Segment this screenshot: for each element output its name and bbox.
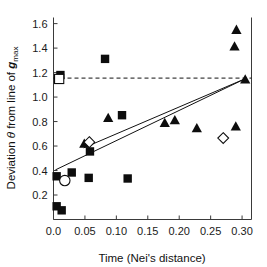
x-tick-label-5: 0.25 [200,225,221,237]
filled-square-marker [101,55,109,63]
y-tick-label-7: 1.6 [32,18,47,30]
open-square-marker [55,74,64,83]
filled-triangle-marker [231,121,241,130]
filled-square-marker [123,174,131,182]
filled-triangle-marker [192,123,202,132]
y-tick-label-2: 0.6 [32,140,47,152]
y-tick-label-3: 0.8 [32,116,47,128]
y-tick-label-0: 0.2 [32,189,47,201]
x-tick-label-3: 0.15 [137,225,158,237]
x-tick-label-4: 0.20 [169,225,190,237]
plot-canvas: 0.00.050.100.150.200.250.30 0.20.40.60.8… [0,0,267,267]
filled-square-marker [118,111,126,119]
x-tick-label-2: 0.10 [106,225,127,237]
open-circle-marker [60,175,70,185]
x-tick-label-0: 0.0 [46,225,61,237]
x-axis-title: Time (Nei's distance) [98,252,205,264]
y-tick-label-1: 0.4 [32,165,47,177]
x-axis-ticks [54,216,243,220]
filled-triangle-marker [170,115,180,124]
y-tick-label-6: 1.4 [32,42,47,54]
filled-square-marker [86,147,94,155]
y-tick-label-5: 1.2 [32,67,47,79]
x-axis-tick-labels: 0.00.050.100.150.200.250.30 [46,225,253,237]
y-axis-tick-labels: 0.20.40.60.81.01.21.41.6 [32,18,47,201]
trend-lines [55,79,245,170]
filled-square-marker [57,206,65,214]
open-diamond-marker [218,133,229,144]
filled-triangle-marker [231,25,241,34]
y-axis-title: Deviation θ from line of gmax [5,47,20,190]
scatter-plot-figure: 0.00.050.100.150.200.250.30 0.20.40.60.8… [0,0,267,267]
x-tick-label-1: 0.05 [74,225,95,237]
filled-square-marker [68,168,76,176]
filled-triangle-marker [229,41,239,50]
filled-triangle-marker [240,74,250,83]
y-tick-label-4: 1.0 [32,91,47,103]
filled-triangle-marker [103,113,113,122]
data-markers [52,25,250,215]
x-tick-label-6: 0.30 [231,225,252,237]
filled-square-marker [85,174,93,182]
regression-line-main [55,79,245,170]
